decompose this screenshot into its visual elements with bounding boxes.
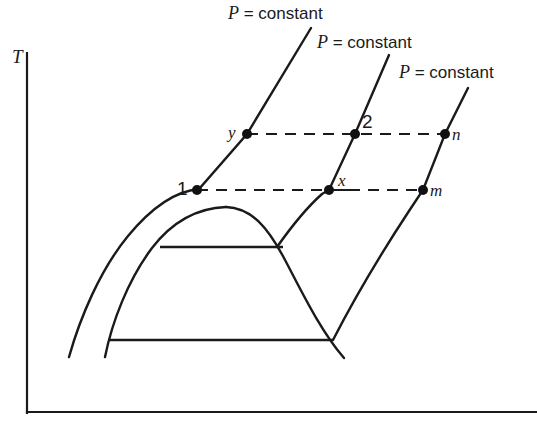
- state-point-label-y: y: [228, 124, 236, 141]
- axes: [27, 53, 537, 413]
- isobar-high-pressure: [333, 88, 468, 340]
- state-point-label-x: x: [338, 172, 346, 189]
- isobar-label-low-pressure: P = constant: [228, 4, 323, 22]
- state-point-label-m: m: [430, 182, 442, 199]
- point-marker-1: [192, 185, 202, 195]
- state-point-label-1: 1: [177, 179, 188, 198]
- pressure-symbol: P: [317, 32, 328, 52]
- pressure-symbol: P: [399, 62, 410, 82]
- isobar-label-text-medium: = constant: [328, 33, 412, 52]
- thermodynamic-diagram: T P = constant P = constant P = constant…: [0, 0, 537, 430]
- point-marker-m: [418, 185, 428, 195]
- point-marker-x: [324, 185, 334, 195]
- saturated-liquid-line: [105, 207, 226, 357]
- state-point-label-2: 2: [362, 112, 373, 131]
- isobar-low-pressure: [69, 28, 311, 357]
- isobar-label-high-pressure: P = constant: [399, 63, 494, 81]
- isobar-label-text-high: = constant: [410, 63, 494, 82]
- pressure-symbol: P: [228, 3, 239, 23]
- isobar-label-medium-pressure: P = constant: [317, 33, 412, 51]
- y-axis-label: T: [12, 47, 23, 66]
- isotherm-dashed-lines: [197, 134, 446, 190]
- saturation-dome: [105, 207, 344, 358]
- point-marker-2: [350, 129, 360, 139]
- saturated-vapor-line: [226, 207, 344, 358]
- isobar-medium-pressure: [277, 55, 389, 247]
- point-marker-n: [440, 129, 450, 139]
- point-marker-y: [242, 129, 252, 139]
- isobar-label-text-low: = constant: [239, 4, 323, 23]
- state-point-label-n: n: [452, 126, 461, 143]
